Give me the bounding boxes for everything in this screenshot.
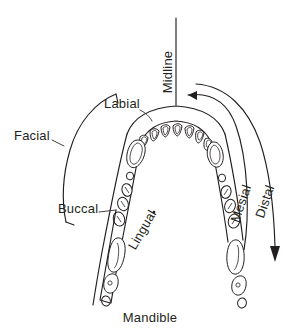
label-midline: Midline [160, 51, 175, 94]
label-buccal: Buccal [58, 201, 98, 216]
buccal-leader-line [99, 210, 116, 212]
mesial-arrow-head [188, 91, 197, 100]
incisor-teeth-group [140, 124, 212, 150]
dental-arch-diagram: Midline Labial Facial Buccal Lingual Mes… [0, 0, 299, 336]
label-mandible: Mandible [123, 310, 177, 325]
tooth-premolar-right-1 [218, 174, 225, 182]
mesial-arrow-curve [188, 95, 247, 250]
facial-leader-line [52, 140, 64, 146]
lingual-label-dot [153, 211, 156, 214]
tooth-molar-right-2 [232, 276, 246, 295]
facial-bracket-bottom-tick [66, 222, 74, 225]
tooth-molar-right-3 [237, 297, 248, 309]
tooth-molar-left-2 [104, 274, 118, 293]
diagram-canvas: Midline Labial Facial Buccal Lingual Mes… [0, 0, 299, 336]
distal-arrow-group [196, 84, 280, 262]
tooth-premolar-left-1 [126, 172, 133, 180]
distal-arrow-head [270, 246, 280, 262]
label-facial: Facial [14, 128, 50, 143]
label-labial: Labial [104, 96, 140, 111]
molar-teeth-group [101, 238, 248, 309]
label-lingual: Lingual [125, 207, 160, 252]
mesial-arrow-group [188, 91, 247, 250]
